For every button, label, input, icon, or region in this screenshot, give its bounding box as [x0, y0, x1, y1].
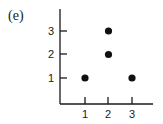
scatter-plot: 3 2 1 1 2 3	[0, 0, 163, 124]
x-tick-label-3: 3	[129, 108, 135, 120]
data-points	[81, 27, 135, 81]
data-point	[81, 74, 88, 81]
y-tick-label-3: 3	[48, 25, 54, 37]
x-tick-label-2: 2	[105, 108, 111, 120]
x-ticks: 1 2 3	[82, 97, 135, 120]
y-tick-label-2: 2	[48, 48, 54, 60]
data-point	[105, 51, 112, 58]
y-ticks: 3 2 1	[48, 25, 67, 84]
data-point	[128, 74, 135, 81]
x-tick-label-1: 1	[82, 108, 88, 120]
data-point	[105, 27, 112, 34]
y-tick-label-1: 1	[48, 72, 54, 84]
